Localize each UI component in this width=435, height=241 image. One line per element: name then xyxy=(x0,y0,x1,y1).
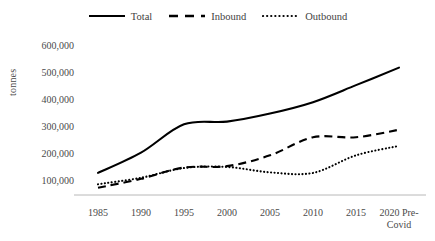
x-tick-label: 2020 Pre-Covid xyxy=(376,207,422,230)
line-chart: Total Inbound Outbound tonnes 600,000 50… xyxy=(0,0,435,241)
x-axis-tick-labels: 1985 1990 1995 2000 2005 2010 2015 2020 … xyxy=(0,0,435,241)
